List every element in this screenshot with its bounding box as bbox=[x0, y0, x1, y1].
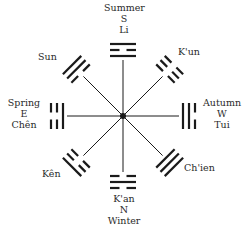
season-winter: Winter bbox=[104, 215, 144, 226]
broken-line bbox=[71, 76, 78, 83]
season-autumn: Autumn bbox=[200, 97, 244, 108]
direction-n: N bbox=[104, 204, 144, 215]
broken-line bbox=[160, 60, 167, 67]
label-li: Summer S Li bbox=[104, 2, 144, 35]
broken-line bbox=[83, 64, 90, 71]
solid-line bbox=[63, 56, 81, 74]
broken-line bbox=[79, 165, 86, 172]
broken-line bbox=[165, 56, 172, 63]
broken-line bbox=[67, 153, 74, 160]
broken-line bbox=[71, 149, 78, 156]
direction-s: S bbox=[104, 13, 144, 24]
broken-line bbox=[168, 76, 175, 83]
trigram-name-ken: Kên bbox=[42, 168, 61, 179]
season-summer: Summer bbox=[104, 2, 144, 13]
center-hub bbox=[120, 113, 126, 119]
label-kan: K'an N Winter bbox=[104, 193, 144, 226]
trigram-chen-icon bbox=[51, 103, 63, 129]
spoke-sun bbox=[83, 76, 123, 116]
trigram-name-sun: Sun bbox=[38, 51, 57, 62]
label-chen: Spring E Chên bbox=[3, 97, 45, 130]
trigram-name-chen: Chên bbox=[3, 119, 45, 130]
solid-line bbox=[67, 60, 85, 78]
solid-line bbox=[165, 158, 183, 176]
solid-line bbox=[160, 153, 178, 171]
spoke-chien bbox=[123, 116, 163, 156]
trigram-name-kun: K'un bbox=[178, 46, 200, 57]
label-ken: Kên bbox=[42, 168, 61, 179]
label-tui: Autumn W Tui bbox=[200, 97, 244, 130]
broken-line bbox=[172, 72, 179, 79]
label-chien: Ch'ien bbox=[184, 162, 215, 173]
trigram-name-kan: K'an bbox=[104, 193, 144, 204]
trigram-kan-icon bbox=[110, 176, 136, 188]
season-spring: Spring bbox=[3, 97, 45, 108]
broken-line bbox=[176, 68, 183, 75]
label-sun: Sun bbox=[38, 51, 57, 62]
trigram-name-tui: Tui bbox=[200, 119, 244, 130]
trigram-name-chien: Ch'ien bbox=[184, 162, 215, 173]
label-kun: K'un bbox=[178, 46, 200, 57]
solid-line bbox=[63, 158, 81, 176]
broken-line bbox=[156, 64, 163, 71]
trigram-tui-icon bbox=[183, 103, 195, 129]
spoke-kun bbox=[123, 76, 163, 116]
broken-line bbox=[83, 161, 90, 168]
direction-w: W bbox=[200, 108, 244, 119]
direction-e: E bbox=[3, 108, 45, 119]
trigram-li-icon bbox=[110, 44, 136, 56]
spoke-ken bbox=[83, 116, 123, 156]
trigram-name-li: Li bbox=[104, 24, 144, 35]
